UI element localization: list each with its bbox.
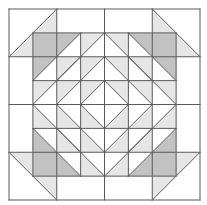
quilt-block-svg — [0, 0, 207, 205]
quilt-diagram — [0, 0, 207, 205]
